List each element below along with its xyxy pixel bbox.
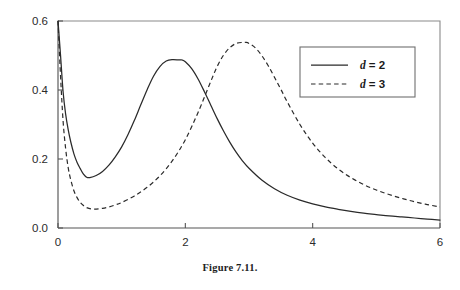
figure-container: 0246 0.00.20.40.6 d= 2 d= 3 Figure 7.11. — [0, 0, 460, 290]
legend-box — [300, 47, 415, 97]
x-axis-ticks — [58, 223, 440, 228]
x-tick-label: 4 — [309, 236, 316, 248]
y-tick-label: 0.2 — [32, 153, 48, 165]
x-tick-label: 2 — [182, 236, 188, 248]
x-tick-label: 0 — [55, 236, 61, 248]
legend-label-d3: d= 3 — [360, 78, 385, 90]
y-tick-label: 0.6 — [32, 15, 48, 27]
x-tick-label: 6 — [437, 236, 443, 248]
legend-label-d2: d= 2 — [360, 59, 385, 71]
y-tick-label: 0.0 — [32, 222, 48, 234]
chart-legend: d= 2 d= 3 — [300, 47, 415, 97]
x-axis-tick-labels: 0246 — [55, 236, 443, 248]
line-chart: 0246 0.00.20.40.6 d= 2 d= 3 — [0, 0, 460, 290]
figure-caption: Figure 7.11. — [0, 262, 460, 273]
y-tick-label: 0.4 — [32, 84, 49, 96]
y-axis-tick-labels: 0.00.20.40.6 — [32, 15, 49, 234]
